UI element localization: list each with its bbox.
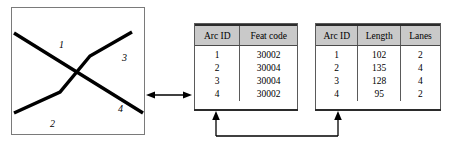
table-row[interactable]: 1 102 2 [316, 46, 440, 63]
column-header-lanes[interactable]: Lanes [400, 25, 440, 46]
column-header-length[interactable]: Length [358, 25, 400, 46]
arc-label-4: 4 [118, 104, 123, 114]
table-row[interactable]: 2 135 4 [316, 62, 440, 75]
cell-arc-id: 1 [316, 46, 358, 63]
figure-root: 1 2 3 4 Arc ID Feat code 1 30002 [0, 0, 453, 148]
map-table-link-arrow [146, 88, 192, 102]
u-shaped-join-arrow-icon [205, 110, 350, 146]
cell-length: 135 [358, 62, 400, 75]
arc-label-1: 1 [59, 40, 64, 50]
table-arc-feat-body: 1 30002 2 30004 3 30004 4 30002 [195, 46, 297, 102]
table-arc-length[interactable]: Arc ID Length Lanes 1 102 2 2 135 4 3 [315, 23, 441, 111]
cell-lanes: 4 [400, 62, 440, 75]
cell-arc-id: 1 [195, 46, 240, 63]
table-row[interactable]: 2 30004 [195, 62, 297, 75]
table-arc-feat-head: Arc ID Feat code [195, 25, 297, 46]
cell-arc-id: 3 [195, 75, 240, 88]
table-arc-feat[interactable]: Arc ID Feat code 1 30002 2 30004 3 30004 [194, 23, 298, 111]
cell-arc-id: 2 [195, 62, 240, 75]
column-header-arc-id[interactable]: Arc ID [195, 25, 240, 46]
column-header-arc-id[interactable]: Arc ID [316, 25, 358, 46]
table-header-row: Arc ID Feat code [195, 25, 297, 46]
cell-lanes: 2 [400, 46, 440, 63]
arc-label-3: 3 [122, 53, 127, 63]
cell-arc-id: 2 [316, 62, 358, 75]
double-headed-arrow-icon [146, 88, 192, 102]
arc-label-2: 2 [50, 119, 55, 129]
cell-lanes: 2 [400, 88, 440, 101]
cell-length: 95 [358, 88, 400, 101]
table-row[interactable]: 3 128 4 [316, 75, 440, 88]
table-row[interactable]: 4 30002 [195, 88, 297, 101]
cell-feat-code: 30004 [240, 62, 297, 75]
cell-length: 128 [358, 75, 400, 88]
cell-lanes: 4 [400, 75, 440, 88]
table-arc-length-body: 1 102 2 2 135 4 3 128 4 4 95 2 [316, 46, 440, 102]
map-arcs-svg [12, 8, 144, 134]
table-arc-length-head: Arc ID Length Lanes [316, 25, 440, 46]
cell-arc-id: 4 [316, 88, 358, 101]
table-row[interactable]: 3 30004 [195, 75, 297, 88]
cell-feat-code: 30002 [240, 88, 297, 101]
column-header-feat-code[interactable]: Feat code [240, 25, 297, 46]
table-header-row: Arc ID Length Lanes [316, 25, 440, 46]
cell-arc-id: 3 [316, 75, 358, 88]
table-row[interactable]: 1 30002 [195, 46, 297, 63]
cell-feat-code: 30004 [240, 75, 297, 88]
table-arc-length-grid: Arc ID Length Lanes 1 102 2 2 135 4 3 [316, 24, 440, 101]
arc-1-4-polyline [14, 33, 143, 113]
table-arc-feat-grid: Arc ID Feat code 1 30002 2 30004 3 30004 [195, 24, 297, 101]
table-row[interactable]: 4 95 2 [316, 88, 440, 101]
table-join-connector [205, 110, 350, 146]
cell-length: 102 [358, 46, 400, 63]
cell-arc-id: 4 [195, 88, 240, 101]
cell-feat-code: 30002 [240, 46, 297, 63]
arc-network-map: 1 2 3 4 [11, 7, 145, 135]
